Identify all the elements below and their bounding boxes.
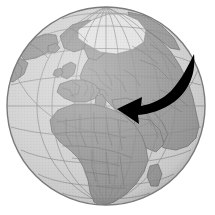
globe-illustration: [0, 0, 215, 215]
limb-shading: [7, 7, 205, 205]
globe-figure: World globe centered on Europe and Afric…: [0, 0, 215, 215]
